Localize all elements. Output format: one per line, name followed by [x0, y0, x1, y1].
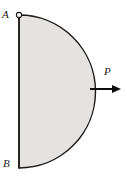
pin-support-circle-icon — [16, 12, 21, 17]
diagram-canvas — [0, 0, 127, 182]
semicircular-plate — [19, 15, 96, 168]
force-label-p: P — [104, 66, 111, 77]
force-arrow-head — [112, 85, 121, 93]
point-label-b: B — [3, 158, 10, 169]
figure-container: A B P — [0, 0, 127, 182]
point-label-a: A — [2, 9, 9, 20]
